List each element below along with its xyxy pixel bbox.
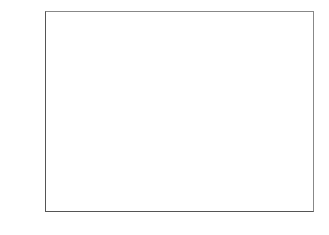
plot-area	[45, 11, 314, 212]
